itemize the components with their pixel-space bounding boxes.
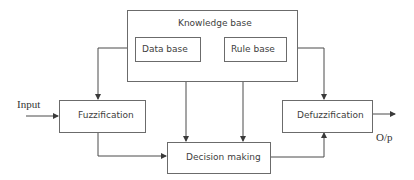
decision-to-defuzzification-arrow <box>270 133 324 157</box>
fuzzification-block: Fuzzification <box>59 100 146 133</box>
output-label: O/p <box>376 131 393 143</box>
kb-to-fuzzification-arrow <box>98 48 127 99</box>
decision-making-label: Decision making <box>186 152 261 162</box>
rule-base-label: Rule base <box>231 44 275 54</box>
fuzzification-to-decision-arrow <box>98 132 166 156</box>
knowledge-base-label: Knowledge base <box>178 18 252 28</box>
input-label: Input <box>17 98 40 110</box>
data-base-label: Data base <box>142 44 188 54</box>
kb-to-defuzzification-arrow <box>297 48 324 99</box>
defuzzification-label: Defuzzification <box>297 110 364 120</box>
fuzzification-label: Fuzzification <box>78 110 134 120</box>
data-base-block: Data base <box>135 37 201 62</box>
defuzzification-block: Defuzzification <box>282 100 373 133</box>
decision-making-block: Decision making <box>167 142 271 174</box>
rule-base-block: Rule base <box>224 37 287 62</box>
